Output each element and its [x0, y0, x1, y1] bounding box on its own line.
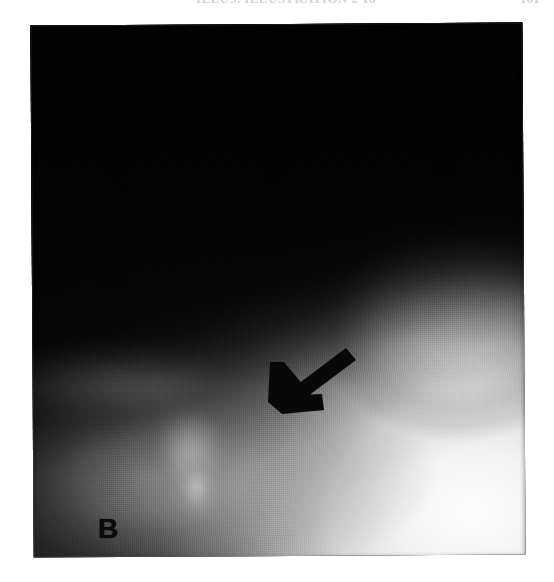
running-head-title: ILLUS. ILLUSTRATION 2 16 — [196, 0, 546, 7]
radiograph-figure: B — [32, 24, 524, 556]
radiograph-plate — [30, 23, 525, 558]
plate-edge-vignette — [30, 23, 525, 558]
page-running-head: ILLUS. ILLUSTRATION 2 16 161 — [0, 0, 554, 11]
panel-label-b: B — [98, 515, 118, 543]
running-head-page-number: 161 — [520, 0, 540, 7]
